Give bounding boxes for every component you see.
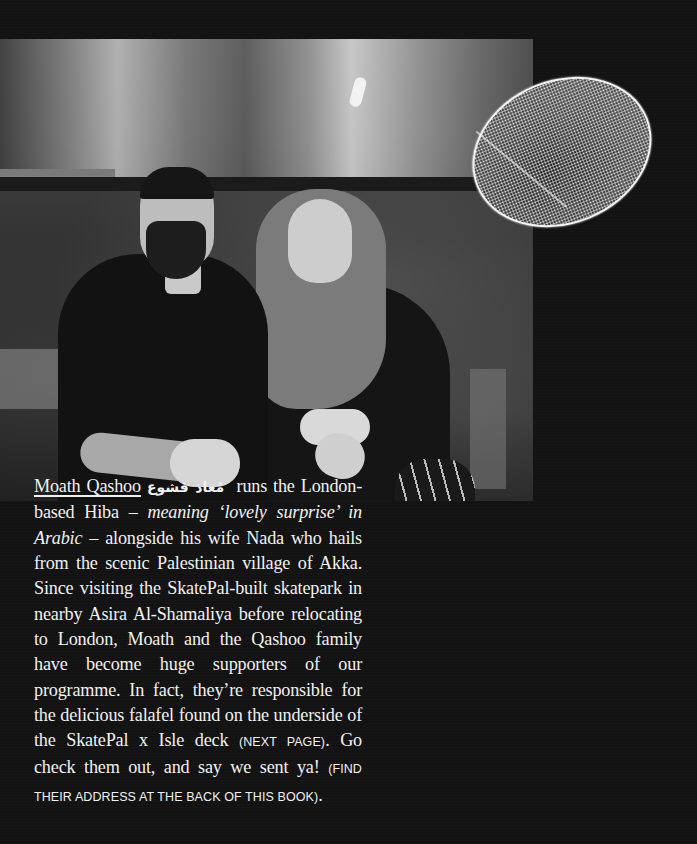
side-table xyxy=(0,349,60,409)
article-text: – alongside his wife Nada who hails from… xyxy=(34,528,362,750)
kitchen-shelf xyxy=(0,177,533,191)
striped-trousers xyxy=(395,459,475,501)
couple-photo xyxy=(0,39,533,501)
article-text: . xyxy=(318,785,322,805)
next-page-note: (NEXT PAGE) xyxy=(239,735,325,749)
wall-panel xyxy=(470,369,506,489)
kitchen-background xyxy=(0,39,533,179)
man-beard xyxy=(146,221,206,279)
person-name: Moath Qashoo xyxy=(34,476,141,496)
person-name-arabic: مُعاذ قشوع xyxy=(147,479,224,495)
article-paragraph: Moath Qashooمُعاذ قشوع runs the London-b… xyxy=(34,474,362,810)
woman-face xyxy=(288,199,352,283)
